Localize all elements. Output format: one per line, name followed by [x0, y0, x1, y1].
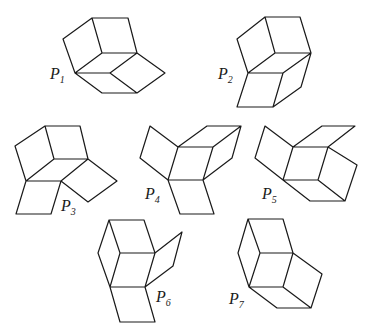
label-p1: P1: [49, 65, 65, 85]
tiling-figures-diagram: P1 P2 P3 P4 P5 P6 P7: [0, 0, 367, 333]
figure-p7: P7: [228, 219, 322, 310]
label-p4: P4: [144, 185, 160, 205]
figure-p5: P5: [255, 126, 357, 205]
figure-p2: P2: [217, 17, 311, 107]
label-p2: P2: [217, 65, 233, 85]
figure-p6: P6: [98, 220, 182, 322]
figure-p4: P4: [140, 126, 241, 214]
p2-edges: [237, 17, 311, 107]
label-p7: P7: [228, 290, 245, 310]
label-p3: P3: [60, 197, 76, 217]
label-p5: P5: [261, 185, 277, 205]
label-p6: P6: [155, 288, 171, 308]
p1-edges: [63, 18, 165, 93]
figure-p1: P1: [49, 18, 165, 93]
figure-p3: P3: [15, 126, 117, 217]
p7-edges: [238, 219, 322, 308]
